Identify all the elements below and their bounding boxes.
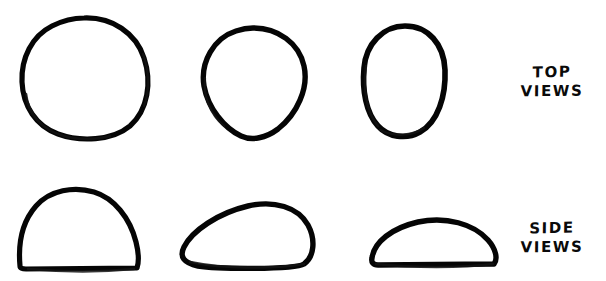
shape-rough-circle <box>16 14 154 142</box>
shape-wedge-dome <box>176 199 318 273</box>
shape-tall-dome <box>12 184 144 276</box>
figure-canvas: TOP VIEWS SIDE VIEWS <box>0 0 606 281</box>
shape-narrow-oval <box>358 22 450 142</box>
shape-egg-oval <box>198 24 310 142</box>
label-top-views-line1: TOP <box>504 62 600 83</box>
label-side-views-line2: VIEWS <box>504 238 600 258</box>
label-top-views: TOP VIEWS <box>504 63 600 101</box>
shape-low-dome <box>362 214 504 272</box>
label-top-views-line2: VIEWS <box>504 82 600 102</box>
label-side-views: SIDE VIEWS <box>504 219 600 257</box>
label-side-views-line1: SIDE <box>504 218 600 239</box>
